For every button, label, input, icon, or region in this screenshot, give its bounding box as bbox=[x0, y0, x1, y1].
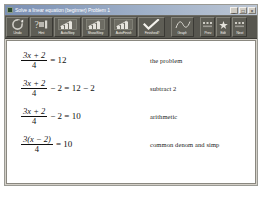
equation-tail: − 2 = 10 bbox=[48, 111, 82, 121]
svg-text:?: ? bbox=[35, 19, 40, 30]
toolbar-button-next[interactable]: Next bbox=[232, 17, 247, 37]
window-title: Solve a linear equation (beginner) Probl… bbox=[15, 5, 230, 15]
equation-workspace[interactable]: 3x + 2 4 = 12 the problem 3x + 2 4 − 2 =… bbox=[6, 40, 256, 184]
toolbar: Undo ? Hint Aut bbox=[5, 15, 257, 39]
maximize-button[interactable]: □ bbox=[239, 7, 247, 14]
toolbar-button-edit[interactable]: Edit bbox=[216, 17, 231, 37]
toolbar-button-autostep[interactable]: AutoStep bbox=[54, 17, 81, 37]
toolbar-label-graph: Graph bbox=[178, 30, 188, 36]
step-row[interactable]: 3x + 2 4 = 12 the problem bbox=[7, 46, 255, 74]
toolbar-label-next: Next bbox=[236, 30, 243, 36]
close-icon: × bbox=[249, 8, 255, 14]
toolbar-label-autostep: AutoStep bbox=[60, 30, 75, 36]
fraction: 3x + 2 4 bbox=[21, 79, 47, 98]
graph-curve-icon bbox=[172, 18, 193, 30]
step-row[interactable]: 3(x − 2) 4 = 10 common denom and simp bbox=[7, 130, 255, 158]
step-list: 3x + 2 4 = 12 the problem 3x + 2 4 − 2 =… bbox=[7, 41, 255, 183]
equation-expression: 3x + 2 4 − 2 = 12 − 2 bbox=[20, 79, 150, 98]
fraction-denominator: 4 bbox=[30, 89, 38, 98]
minimize-icon: _ bbox=[231, 8, 237, 14]
toolbar-label-finished: Finished? bbox=[144, 30, 159, 36]
toolbar-label-showstep: ShowStep bbox=[87, 30, 103, 36]
equation-expression: 3x + 2 4 = 12 bbox=[20, 51, 150, 70]
step-annotation: the problem bbox=[150, 57, 182, 64]
toolbar-label-edit: Edit bbox=[221, 30, 227, 36]
fraction-numerator: 3(x − 2) bbox=[21, 135, 53, 144]
toolbar-separator bbox=[166, 17, 170, 37]
undo-arrow-icon bbox=[7, 18, 28, 30]
window-controls: _ □ × bbox=[230, 7, 256, 14]
toolbar-button-finished[interactable]: Finished? bbox=[138, 17, 165, 37]
step-annotation: common denom and simp bbox=[150, 141, 219, 148]
autofinish-chart-icon bbox=[111, 18, 136, 30]
step-row[interactable]: 3x + 2 4 − 2 = 10 arithmetic bbox=[7, 102, 255, 130]
equation-tail: = 10 bbox=[54, 139, 74, 149]
toolbar-button-showstep[interactable]: ShowStep bbox=[82, 17, 109, 37]
toolbar-button-undo[interactable]: Undo bbox=[6, 17, 29, 37]
minimize-button[interactable]: _ bbox=[230, 7, 238, 14]
fraction: 3x + 2 4 bbox=[21, 107, 47, 126]
fraction-numerator: 3x + 2 bbox=[21, 51, 47, 60]
fraction-denominator: 4 bbox=[33, 145, 41, 154]
prev-icon bbox=[201, 18, 214, 30]
app-icon bbox=[7, 7, 13, 13]
toolbar-button-prev[interactable]: Prev bbox=[200, 17, 215, 37]
equation-tail: = 12 bbox=[48, 55, 68, 65]
toolbar-button-hint[interactable]: ? Hint bbox=[30, 17, 53, 37]
equation-tail: − 2 = 12 − 2 bbox=[48, 83, 96, 93]
toolbar-button-graph[interactable]: Graph bbox=[171, 17, 194, 37]
fraction-denominator: 4 bbox=[30, 117, 38, 126]
toolbar-label-hint: Hint bbox=[38, 30, 44, 36]
step-annotation: arithmetic bbox=[150, 113, 177, 120]
hint-question-icon: ? bbox=[31, 18, 52, 30]
step-annotation: subtract 2 bbox=[150, 85, 176, 92]
fraction-numerator: 3x + 2 bbox=[21, 79, 47, 88]
next-icon bbox=[233, 18, 246, 30]
fraction-numerator: 3x + 2 bbox=[21, 107, 47, 116]
fraction: 3(x − 2) 4 bbox=[21, 135, 53, 154]
equation-expression: 3x + 2 4 − 2 = 10 bbox=[20, 107, 150, 126]
title-bar: Solve a linear equation (beginner) Probl… bbox=[5, 5, 257, 15]
step-row[interactable]: 3x + 2 4 − 2 = 12 − 2 subtract 2 bbox=[7, 74, 255, 102]
showstep-chart-icon bbox=[83, 18, 108, 30]
toolbar-separator-2 bbox=[195, 17, 199, 37]
close-button[interactable]: × bbox=[248, 7, 256, 14]
edit-star-icon bbox=[217, 18, 230, 30]
equation-expression: 3(x − 2) 4 = 10 bbox=[20, 135, 150, 154]
autostep-chart-icon bbox=[55, 18, 80, 30]
toolbar-label-prev: Prev bbox=[204, 30, 211, 36]
fraction-denominator: 4 bbox=[30, 61, 38, 70]
fraction: 3x + 2 4 bbox=[21, 51, 47, 70]
maximize-icon: □ bbox=[240, 8, 246, 14]
toolbar-label-autofinish: AutoFinish bbox=[115, 30, 132, 36]
application-window: Solve a linear equation (beginner) Probl… bbox=[4, 4, 258, 186]
checkmark-icon bbox=[139, 18, 164, 30]
toolbar-label-undo: Undo bbox=[13, 30, 22, 36]
toolbar-button-autofinish[interactable]: AutoFinish bbox=[110, 17, 137, 37]
